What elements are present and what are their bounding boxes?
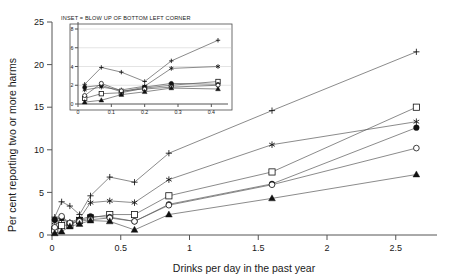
square-glyph (269, 169, 275, 175)
x-axis-title: Drinks per day in the past year (173, 262, 316, 274)
inset-x-tick-label: 0 (77, 109, 80, 115)
circle-glyph (166, 202, 172, 208)
inset-x-tick-label: 0.1 (108, 109, 115, 115)
marker-circle-open (269, 182, 275, 188)
inset-y-tick-label: 0 (71, 101, 74, 107)
inset-x-tick-label: 0.2 (141, 109, 148, 115)
marker-square-open (413, 104, 419, 110)
inset-x-tick-label: 0.4 (208, 109, 215, 115)
y-axis-title: Per cent reporting two or more harms (6, 58, 18, 232)
marker-circle-open (132, 219, 138, 225)
marker-circle-filled (83, 85, 87, 89)
y-tick-label: 20 (34, 60, 44, 70)
circle-glyph (132, 219, 138, 225)
x-tick-label: 0 (49, 243, 54, 253)
circle-glyph (269, 182, 275, 188)
circle-glyph (414, 125, 420, 131)
alcohol-harms-line-chart: Per cent reporting two or more harms Dri… (0, 0, 458, 279)
marker-circle-filled (52, 217, 58, 223)
circle-glyph (52, 217, 58, 223)
x-tick-label: 2 (324, 243, 329, 253)
x-tick-label: 0.5 (114, 243, 127, 253)
y-tick-label: 25 (34, 17, 44, 27)
marker-circle-open (99, 81, 103, 85)
y-tick-label: 5 (39, 188, 44, 198)
inset-plot: 0246800.10.20.30.4 (70, 22, 232, 115)
circle-glyph (83, 94, 87, 98)
inset-y-tick-label: 8 (71, 26, 74, 32)
x-tick-label: 1.5 (252, 243, 265, 253)
square-glyph (99, 91, 103, 95)
chart-figure: Per cent reporting two or more harms Dri… (0, 0, 458, 279)
x-tick-label: 1 (187, 243, 192, 253)
circle-glyph (83, 85, 87, 89)
marker-square-open (131, 211, 137, 217)
marker-circle-open (59, 213, 65, 219)
square-glyph (413, 104, 419, 110)
y-tick-label: 0 (39, 230, 44, 240)
circle-glyph (59, 213, 65, 219)
inset-x-tick-label: 0.3 (174, 109, 181, 115)
x-tick-label: 2.5 (389, 243, 402, 253)
marker-circle-open (166, 202, 172, 208)
y-tick-label: 15 (34, 102, 44, 112)
square-glyph (166, 193, 172, 199)
marker-square-open (99, 91, 103, 95)
marker-square-open (269, 169, 275, 175)
inset-y-tick-label: 4 (71, 64, 74, 70)
circle-glyph (99, 81, 103, 85)
square-glyph (131, 211, 137, 217)
marker-square-open (166, 193, 172, 199)
marker-circle-open (414, 145, 420, 151)
circle-glyph (414, 145, 420, 151)
y-tick-label: 10 (34, 145, 44, 155)
marker-circle-filled (414, 125, 420, 131)
inset-y-tick-label: 2 (71, 82, 74, 88)
inset-title: INSET = BLOW UP OF BOTTOM LEFT CORNER (61, 15, 191, 21)
marker-circle-open (83, 94, 87, 98)
inset-y-tick-label: 6 (71, 45, 74, 51)
